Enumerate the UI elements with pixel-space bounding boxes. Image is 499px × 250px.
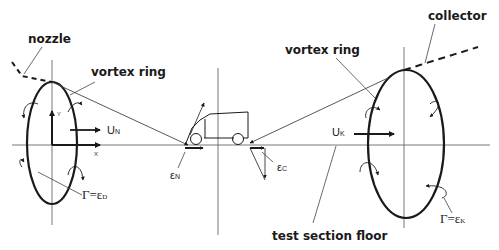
collector-dashed-line xyxy=(404,47,478,70)
y-axis-label: Y xyxy=(57,111,61,117)
nozzle-label: nozzle xyxy=(28,33,71,45)
diagram-graphics xyxy=(0,0,499,250)
vortex-ring-diagram: nozzle collector vortex ring vortex ring… xyxy=(0,0,499,250)
un-symbol: UN xyxy=(107,125,120,136)
nozzle-dashed-line xyxy=(12,62,52,82)
collector-label: collector xyxy=(428,10,487,22)
eps-n-symbol: εN xyxy=(170,170,180,181)
vortex-ring-right-label: vortex ring xyxy=(285,44,360,56)
right-vortex-ring xyxy=(368,70,444,218)
vehicle-model xyxy=(186,112,248,145)
uk-symbol: UK xyxy=(332,127,345,138)
x-axis-label: X xyxy=(94,151,98,157)
gamma-d-symbol: Γ=εD xyxy=(82,188,107,201)
eps-c-symbol: εC xyxy=(277,162,287,173)
vortex-ring-left-label: vortex ring xyxy=(91,66,166,78)
test-section-floor-label: test section floor xyxy=(272,230,387,242)
gamma-k-symbol: Γ=εK xyxy=(440,212,465,225)
